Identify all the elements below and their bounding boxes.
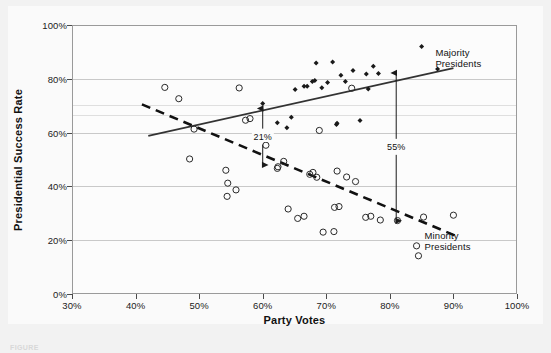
x-tick-mark [199,294,200,299]
faint-rule [73,105,516,106]
annotation-label-21: 21% [252,132,274,142]
y-tick-label: 100% [15,20,67,31]
faint-rule [73,115,516,116]
x-tick-label: 90% [423,300,483,311]
y-tick-mark [67,240,72,241]
y-axis-label-text: Presidential Success Rate [12,89,24,231]
series-label-majority: Majority Presidents [435,47,481,69]
x-tick-label: 80% [360,300,420,311]
x-tick-mark [326,294,327,299]
x-tick-mark [72,294,73,299]
figure-caption: FIGURE [10,344,140,350]
series-label-minority-line1: Minority [425,230,471,241]
figure-page: Presidential Success Rate 0%20%40%60%80%… [0,0,551,353]
y-axis-label: Presidential Success Rate [10,25,26,294]
x-tick-mark [263,294,264,299]
x-tick-mark [453,294,454,299]
x-tick-mark [390,294,391,299]
y-tick-mark [67,133,72,134]
x-tick-label: 60% [233,300,293,311]
y-tick-mark [67,186,72,187]
series-label-minority-line2: Presidents [425,241,471,252]
grid-line [73,133,516,134]
y-tick-mark [67,79,72,80]
series-label-majority-line2: Presidents [435,58,481,69]
x-tick-label: 70% [296,300,356,311]
grid-line [73,186,516,187]
x-tick-label: 40% [106,300,166,311]
y-tick-label: 60% [15,127,67,138]
x-tick-mark [136,294,137,299]
series-label-minority: Minority Presidents [425,230,471,252]
grid-line [73,79,516,80]
y-tick-label: 80% [15,73,67,84]
y-tick-label: 0% [15,289,67,300]
annotation-label-55: 55% [385,142,407,152]
x-axis-label: Party Votes [72,314,517,326]
y-tick-label: 40% [15,181,67,192]
y-tick-label: 20% [15,235,67,246]
y-tick-mark [67,25,72,26]
x-tick-label: 30% [42,300,102,311]
series-label-majority-line1: Majority [435,47,481,58]
x-tick-mark [517,294,518,299]
x-tick-label: 100% [487,300,547,311]
x-tick-label: 50% [169,300,229,311]
